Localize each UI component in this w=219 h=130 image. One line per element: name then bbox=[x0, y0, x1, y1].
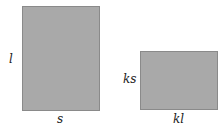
rectangle-scaled bbox=[140, 51, 218, 110]
label-original-width: s bbox=[57, 113, 63, 125]
label-scaled-height: ks bbox=[123, 73, 136, 85]
label-scaled-width: kl bbox=[173, 113, 184, 125]
rectangle-original bbox=[22, 6, 100, 111]
label-original-height: l bbox=[9, 53, 13, 65]
